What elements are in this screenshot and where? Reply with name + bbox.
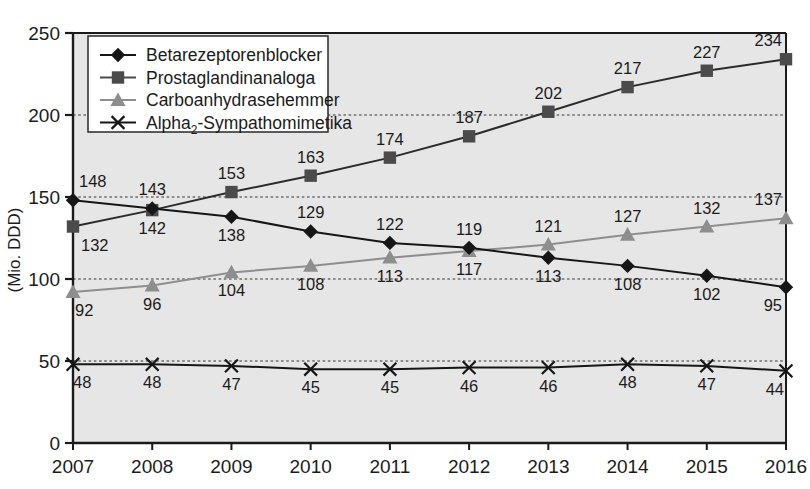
marker-s1-i3 — [304, 169, 316, 181]
data-label-s3-i7: 48 — [618, 373, 636, 391]
y-tick-label-50: 50 — [39, 351, 60, 372]
data-label-s0-i7: 108 — [614, 275, 642, 293]
data-label-s1-i5: 187 — [455, 108, 483, 126]
data-label-s2-i0: 92 — [75, 301, 93, 319]
data-label-s3-i2: 47 — [222, 375, 240, 393]
data-label-s0-i1: 143 — [138, 180, 166, 198]
data-label-s1-i7: 217 — [614, 59, 642, 77]
data-label-s0-i0: 148 — [79, 172, 107, 190]
data-label-s0-i8: 102 — [693, 285, 721, 303]
data-label-s2-i4: 113 — [377, 267, 403, 285]
data-label-s0-i2: 138 — [218, 226, 246, 244]
data-label-s1-i2: 153 — [218, 164, 246, 182]
x-tick-label-2016: 2016 — [765, 456, 807, 477]
y-axis-title: (Mio. DDD) — [5, 208, 24, 293]
data-label-s3-i9: 44 — [766, 380, 784, 398]
data-label-s1-i3: 163 — [297, 148, 325, 166]
x-tick-label-2013: 2013 — [527, 456, 569, 477]
legend-label-0: Betarezeptorenblocker — [146, 45, 322, 65]
chart-container: 050100150200250 200720082009201020112012… — [0, 0, 810, 489]
data-label-s2-i6: 121 — [535, 217, 563, 235]
data-label-s3-i0: 48 — [73, 373, 91, 391]
marker-s1-i5 — [463, 130, 475, 142]
data-label-s0-i3: 129 — [297, 203, 325, 221]
marker-s1-i0 — [67, 220, 79, 232]
y-tick-label-0: 0 — [49, 433, 60, 454]
data-label-s2-i3: 108 — [297, 275, 325, 293]
marker-s1-i8 — [701, 65, 713, 77]
x-tick-label-2011: 2011 — [369, 456, 410, 477]
data-label-s3-i1: 48 — [143, 373, 161, 391]
data-label-s1-i4: 174 — [376, 130, 404, 148]
legend-marker-square-icon — [112, 71, 124, 83]
data-label-s0-i9: 95 — [764, 296, 782, 314]
data-label-s2-i9: 137 — [754, 190, 782, 208]
x-tick-label-2009: 2009 — [210, 456, 252, 477]
marker-s1-i4 — [384, 151, 396, 163]
legend-label-1: Prostaglandinanaloga — [146, 68, 316, 88]
x-tick-label-2015: 2015 — [686, 456, 728, 477]
data-label-s2-i1: 96 — [143, 295, 161, 313]
y-tick-label-150: 150 — [28, 187, 60, 208]
data-label-s3-i8: 47 — [698, 375, 716, 393]
data-label-s1-i1: 142 — [138, 219, 166, 237]
x-tick-label-2014: 2014 — [606, 456, 649, 477]
x-tick-label-2008: 2008 — [131, 456, 173, 477]
x-tick-label-2010: 2010 — [290, 456, 332, 477]
y-tick-label-250: 250 — [28, 23, 60, 44]
x-tick-label-2007: 2007 — [52, 456, 94, 477]
data-label-s0-i6: 113 — [535, 267, 561, 285]
x-tick-label-2012: 2012 — [448, 456, 490, 477]
y-axis-title-text: (Mio. DDD) — [5, 208, 24, 293]
y-tick-label-100: 100 — [28, 269, 60, 290]
marker-s1-i9 — [780, 53, 792, 65]
data-label-s3-i3: 45 — [301, 378, 319, 396]
legend-label-2: Carboanhydrasehemmer — [146, 90, 340, 110]
data-label-s1-i8: 227 — [693, 43, 721, 61]
data-label-s0-i5: 119 — [456, 220, 482, 238]
data-label-s1-i9: 234 — [754, 31, 782, 49]
line-chart: 050100150200250 200720082009201020112012… — [0, 0, 810, 489]
data-label-s3-i6: 46 — [539, 377, 557, 395]
data-label-s1-i6: 202 — [535, 84, 563, 102]
data-label-s2-i7: 127 — [614, 207, 642, 225]
data-label-s0-i4: 122 — [376, 215, 404, 233]
data-label-s3-i5: 46 — [460, 377, 478, 395]
data-label-s3-i4: 45 — [381, 378, 399, 396]
data-label-s2-i8: 132 — [693, 199, 721, 217]
marker-s1-i2 — [225, 186, 237, 198]
data-label-s1-i0: 132 — [81, 236, 109, 254]
y-tick-label-200: 200 — [28, 105, 60, 126]
data-label-s2-i5: 117 — [456, 260, 482, 278]
marker-s1-i6 — [542, 106, 554, 118]
chart-legend: BetarezeptorenblockerProstaglandinanalog… — [88, 36, 352, 137]
data-label-s2-i2: 104 — [218, 281, 246, 299]
marker-s1-i7 — [621, 81, 633, 93]
